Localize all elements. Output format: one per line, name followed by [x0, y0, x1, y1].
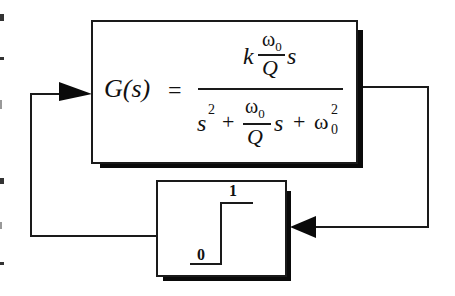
step-function-icon	[0, 0, 455, 296]
step-high-label: 1	[229, 183, 237, 199]
step-low-label: 0	[197, 247, 205, 263]
